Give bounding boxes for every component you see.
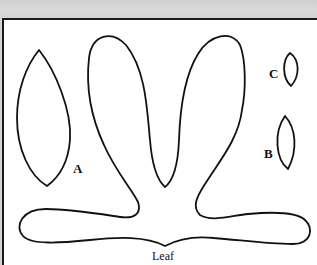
- piece-a-outline: [17, 50, 70, 186]
- piece-b-outline: [277, 116, 294, 169]
- piece-a-label: A: [73, 161, 82, 177]
- pattern-page: A C B Leaf: [0, 0, 317, 265]
- pattern-outlines: [0, 0, 317, 265]
- leaf-outline: [19, 36, 310, 246]
- piece-c-label: C: [269, 66, 278, 82]
- leaf-label: Leaf: [152, 249, 174, 264]
- piece-b-label: B: [264, 146, 273, 162]
- piece-c-outline: [284, 53, 298, 86]
